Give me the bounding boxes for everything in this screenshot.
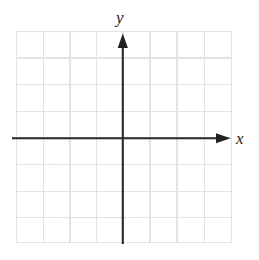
y-axis-label: y: [116, 9, 124, 26]
coordinate-plane-svg: [0, 0, 259, 260]
x-axis-label: x: [236, 130, 244, 147]
coordinate-plane-figure: y x: [0, 0, 259, 260]
figure-background: [0, 0, 259, 260]
